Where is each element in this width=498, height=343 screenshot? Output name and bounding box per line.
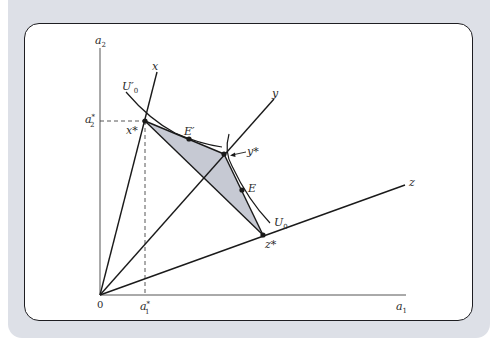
ray-z-label: z xyxy=(408,176,415,189)
edge-x-star-z-star xyxy=(145,121,263,235)
y-star-label: y* xyxy=(246,145,259,158)
a1-star-label: a*1 xyxy=(140,300,151,316)
ray-y-label: y xyxy=(271,87,279,100)
z-star-label: z* xyxy=(264,238,277,251)
point-x-star xyxy=(142,118,147,123)
x-axis-label: a1 xyxy=(396,300,407,315)
origin-label: 0 xyxy=(97,299,103,310)
ray-x xyxy=(100,72,157,295)
a2-star-label: a*2 xyxy=(85,113,96,129)
ray-x-label: x xyxy=(152,60,159,73)
E-label: E xyxy=(247,182,256,195)
U0-label: U0 xyxy=(274,216,288,231)
isoquant-diagram: a2 a1 0 a*2 a*1 x y z x* y* z* E E′ U′0 … xyxy=(0,0,498,343)
point-E xyxy=(239,187,244,192)
y-axis-label: a2 xyxy=(95,34,106,49)
point-z-star xyxy=(260,232,265,237)
point-y-star xyxy=(221,151,226,156)
y-star-arrowhead xyxy=(230,153,236,158)
x-star-label: x* xyxy=(126,124,138,137)
E-prime-label: E′ xyxy=(183,125,195,138)
U0-prime-label: U′0 xyxy=(122,80,138,95)
